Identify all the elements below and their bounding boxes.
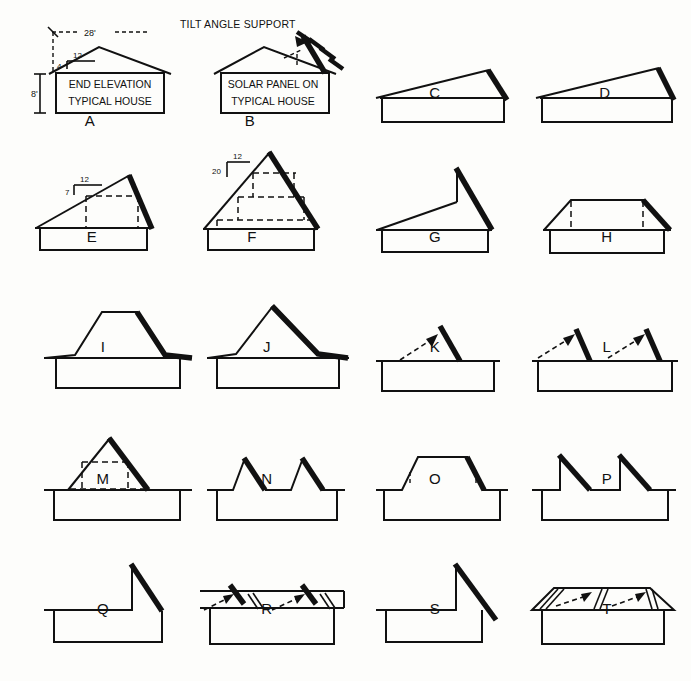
roof-hip-left bbox=[544, 200, 644, 230]
figure-caption-k: K bbox=[405, 338, 465, 355]
slope-rise-text: 20 bbox=[212, 167, 221, 176]
roof-left-slope bbox=[204, 152, 270, 229]
slope-run-text: 12 bbox=[233, 152, 242, 161]
house-title-line2: TYPICAL HOUSE bbox=[231, 95, 315, 107]
house-title-line1: END ELEVATION bbox=[69, 78, 151, 90]
panel-rail-2a bbox=[320, 594, 330, 609]
figure-caption-j: J bbox=[237, 338, 297, 355]
peak-2-right-bold bbox=[302, 458, 323, 490]
figure-caption-f: F bbox=[222, 228, 282, 245]
dim-height-text: 8' bbox=[31, 89, 38, 99]
house-body bbox=[56, 358, 180, 388]
figure-caption-d: D bbox=[575, 84, 635, 101]
figure-k bbox=[372, 318, 532, 398]
figure-caption-t: T bbox=[577, 600, 637, 617]
figure-caption-a: A bbox=[60, 112, 120, 129]
figure-caption-q: Q bbox=[73, 600, 133, 617]
figure-caption-r: R bbox=[237, 600, 297, 617]
roof-slope-bold bbox=[131, 564, 162, 611]
house-title-line2: TYPICAL HOUSE bbox=[68, 95, 152, 107]
figure-caption-o: O bbox=[405, 470, 465, 487]
roof-hip-right-bold bbox=[643, 200, 670, 230]
solar-panel-2 bbox=[646, 329, 660, 361]
house-body bbox=[217, 358, 339, 388]
roof-right-slope-bold bbox=[269, 152, 318, 229]
roof-bold-end bbox=[658, 68, 674, 100]
panel-row-3a bbox=[646, 589, 652, 609]
figure-caption-n: N bbox=[237, 470, 297, 487]
roof-low-slope bbox=[377, 202, 457, 230]
figure-caption-m: M bbox=[73, 470, 133, 487]
house-body bbox=[538, 361, 672, 391]
figure-caption-l: L bbox=[577, 338, 637, 355]
house-title-line1: SOLAR PANEL ON bbox=[228, 78, 318, 90]
diagram-sheet: 28' 12 4 8' END ELEVATION TYPICAL HOUSE … bbox=[0, 0, 691, 681]
house-body bbox=[384, 490, 500, 520]
figure-caption-s: S bbox=[405, 600, 465, 617]
figure-caption-g: G bbox=[405, 228, 465, 245]
figure-caption-b: B bbox=[220, 112, 280, 129]
figure-caption-e: E bbox=[62, 228, 122, 245]
sawtooth-1-vertical bbox=[532, 456, 560, 490]
figure-caption-h: H bbox=[577, 228, 637, 245]
panel-rail-2b bbox=[325, 593, 335, 608]
arrowhead bbox=[223, 594, 234, 604]
house-body bbox=[542, 490, 668, 520]
figure-l bbox=[528, 318, 691, 398]
house-body bbox=[54, 490, 180, 520]
slope-rise-text: 7 bbox=[65, 188, 70, 197]
house-body bbox=[382, 361, 494, 391]
figure-r bbox=[196, 578, 366, 658]
arrowhead bbox=[563, 334, 575, 346]
roof-bold-end bbox=[488, 70, 507, 100]
slope-run-text: 12 bbox=[80, 175, 89, 184]
figure-t bbox=[528, 578, 691, 658]
house-body bbox=[217, 490, 337, 520]
roof-gambrel-right-bold bbox=[137, 312, 192, 358]
dim-width-text: 28' bbox=[84, 28, 96, 38]
figure-caption-p: P bbox=[577, 470, 637, 487]
figure-caption-c: C bbox=[405, 84, 465, 101]
roof-bold-end bbox=[129, 175, 152, 229]
figure-caption-i: I bbox=[73, 338, 133, 355]
roof-steep-slope-bold bbox=[456, 168, 492, 230]
sun-arrow-1 bbox=[538, 334, 575, 358]
figure-h bbox=[540, 178, 691, 258]
